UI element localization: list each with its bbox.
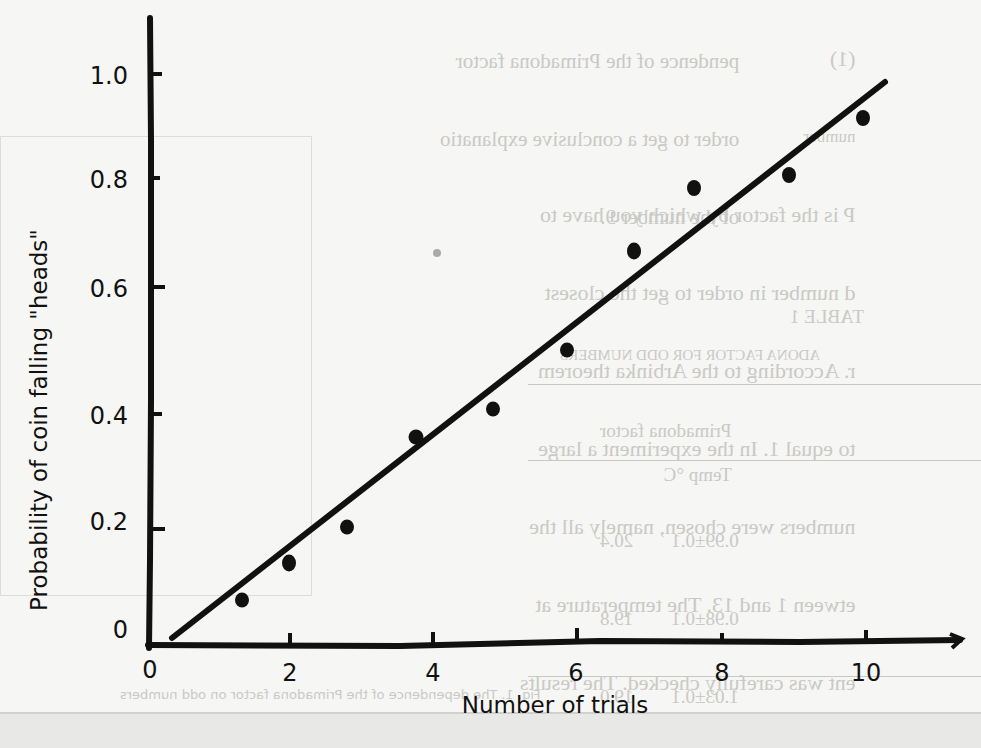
y-tick-label: 1.0 (90, 62, 128, 90)
y-tick-label: 0.2 (90, 508, 128, 536)
data-point (282, 555, 296, 572)
x-tick-label: 4 (425, 659, 440, 687)
stray-speck (433, 249, 441, 257)
data-point (409, 430, 424, 445)
data-point (560, 343, 574, 358)
y-tick-label: 0.4 (90, 402, 128, 430)
fitted-trend-line (172, 82, 885, 638)
data-points (235, 110, 870, 608)
chart: 1.0 0.8 0.6 0.4 0.2 0 0 2 4 6 8 10 Numbe… (0, 0, 981, 748)
data-point (782, 167, 796, 183)
y-axis-title: Probability of coin falling "heads" (26, 229, 52, 611)
y-axis (149, 18, 165, 648)
y-tick-label: 0 (113, 616, 128, 644)
y-tick-label: 0.8 (90, 166, 128, 194)
data-point (856, 110, 870, 126)
y-tick-label: 0.6 (90, 275, 128, 303)
x-tick-label: 10 (851, 659, 882, 687)
x-axis-title: Number of trials (462, 692, 649, 718)
data-point (627, 243, 641, 260)
x-tick-label: 0 (142, 656, 157, 684)
y-tick-labels: 1.0 0.8 0.6 0.4 0.2 0 (90, 62, 128, 644)
x-axis (148, 628, 962, 648)
x-tick-label: 6 (568, 659, 583, 687)
data-point (235, 593, 249, 608)
data-point (687, 180, 701, 196)
x-tick-label: 8 (714, 659, 729, 687)
x-tick-label: 2 (282, 659, 297, 687)
x-tick-labels: 0 2 4 6 8 10 (142, 656, 881, 687)
data-point (486, 402, 500, 417)
data-point (340, 520, 354, 535)
